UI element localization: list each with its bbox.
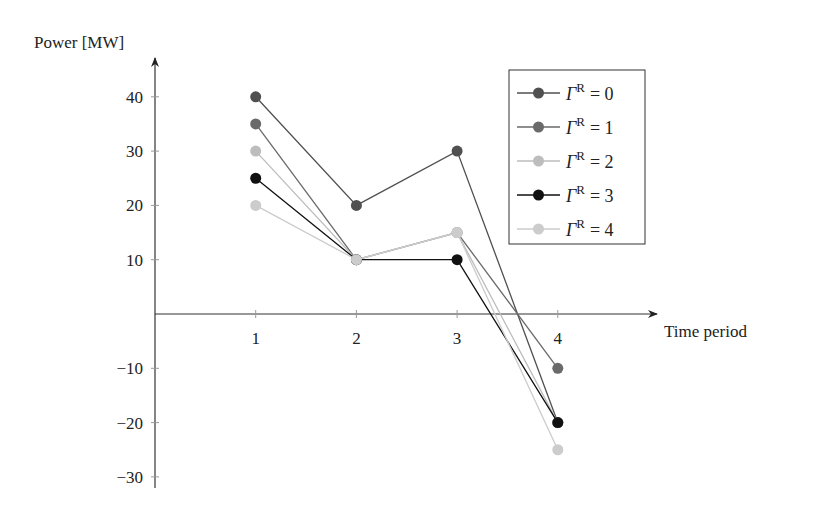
legend-label: ΓR= 1 bbox=[565, 114, 614, 138]
legend-marker-icon bbox=[533, 156, 544, 167]
y-axis-label: Power [MW] bbox=[34, 33, 124, 52]
data-point-marker bbox=[452, 254, 463, 265]
legend-label: ΓR= 4 bbox=[565, 216, 614, 240]
data-point-marker bbox=[552, 444, 563, 455]
y-tick-label: −10 bbox=[116, 359, 143, 378]
y-ticks: −30−20−1010203040 bbox=[116, 88, 159, 487]
legend-label: ΓR= 0 bbox=[565, 80, 614, 104]
data-point-marker bbox=[452, 227, 463, 238]
y-tick-label: 40 bbox=[126, 88, 143, 107]
x-tick-label: 1 bbox=[251, 329, 260, 348]
legend-marker-icon bbox=[533, 190, 544, 201]
y-tick-label: 30 bbox=[126, 142, 143, 161]
data-point-marker bbox=[552, 363, 563, 374]
y-tick-label: 10 bbox=[126, 251, 143, 270]
y-tick-label: 20 bbox=[126, 196, 143, 215]
data-point-marker bbox=[250, 146, 261, 157]
y-tick-label: −20 bbox=[116, 414, 143, 433]
data-point-marker bbox=[250, 173, 261, 184]
legend-marker-icon bbox=[533, 88, 544, 99]
x-tick-label: 4 bbox=[554, 329, 563, 348]
data-point-marker bbox=[351, 200, 362, 211]
data-point-marker bbox=[250, 200, 261, 211]
line-chart: Power [MW] Time period −30−20−1010203040… bbox=[0, 0, 817, 514]
legend-marker-icon bbox=[533, 224, 544, 235]
x-tick-label: 2 bbox=[352, 329, 361, 348]
legend-label: ΓR= 3 bbox=[565, 182, 614, 206]
x-axis-label: Time period bbox=[664, 322, 747, 341]
data-point-marker bbox=[552, 417, 563, 428]
data-point-marker bbox=[250, 118, 261, 129]
data-point-marker bbox=[250, 91, 261, 102]
legend: ΓR= 0ΓR= 1ΓR= 2ΓR= 3ΓR= 4 bbox=[509, 70, 645, 244]
legend-label: ΓR= 2 bbox=[565, 148, 614, 172]
y-tick-label: −30 bbox=[116, 468, 143, 487]
x-tick-label: 3 bbox=[453, 329, 462, 348]
legend-marker-icon bbox=[533, 122, 544, 133]
data-point-marker bbox=[351, 254, 362, 265]
data-point-marker bbox=[452, 146, 463, 157]
